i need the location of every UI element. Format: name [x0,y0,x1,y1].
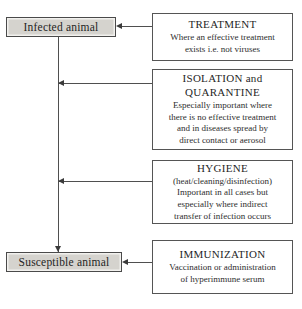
isolation-arrowhead-left-icon [58,80,64,86]
treatment-arrowhead-left-icon [116,23,122,29]
disease-control-flow-diagram: Infected animal Susceptible animal TREAT… [0,0,302,309]
intervention-desc-hygiene-line-2: Important in all cases but [177,187,268,198]
intervention-title-isolation-line-2: QUARANTINE [185,86,260,99]
intervention-box-immunization: IMMUNIZATION Vaccination or administrati… [152,240,293,294]
intervention-desc-hygiene-line-4: transfer of infection occurs [174,211,271,222]
intervention-box-treatment: TREATMENT Where an effective treatment e… [152,13,293,61]
intervention-desc-treatment-line-2: exists i.e. not viruses [185,44,260,55]
intervention-title-hygiene: HYGIENE [197,162,248,175]
immunization-arrowhead-left-icon [122,259,128,265]
state-box-susceptible-animal: Susceptible animal [6,252,122,272]
intervention-desc-treatment-line-1: Where an effective treatment [170,32,275,43]
intervention-title-isolation-line-1: ISOLATION and [183,72,263,85]
intervention-desc-hygiene-line-1: (heat/cleaning/disinfection) [173,176,272,187]
state-box-infected-animal: Infected animal [6,17,116,37]
intervention-title-treatment: TREATMENT [188,18,256,31]
intervention-desc-immunization-line-2: of hyperimmune serum [181,274,265,285]
intervention-desc-isolation-line-3: and in diseases spread by [177,123,268,134]
hygiene-connector-line [58,181,152,182]
intervention-title-immunization: IMMUNIZATION [179,248,265,261]
isolation-connector-line [58,83,152,84]
intervention-desc-immunization-line-1: Vaccination or administration [169,262,275,273]
intervention-desc-isolation-line-2: there is no effective treatment [169,112,276,123]
state-label-susceptible-animal: Susceptible animal [19,256,110,269]
intervention-desc-isolation-line-4: direct contact or aerosol [179,135,266,146]
intervention-box-hygiene: HYGIENE (heat/cleaning/disinfection) Imp… [152,160,293,224]
immunization-connector-line [128,262,152,263]
transmission-pathway-trunk-line [58,37,59,252]
intervention-box-isolation-quarantine: ISOLATION and QUARANTINE Especially impo… [152,69,293,150]
intervention-desc-isolation-line-1: Especially important where [173,100,272,111]
treatment-connector-line [122,26,152,27]
intervention-desc-hygiene-line-3: especially where indirect [178,199,268,210]
state-label-infected-animal: Infected animal [24,21,99,34]
hygiene-arrowhead-left-icon [58,178,64,184]
